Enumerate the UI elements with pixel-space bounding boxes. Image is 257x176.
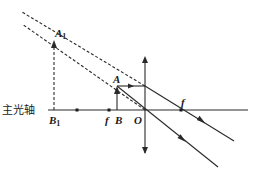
virtual-image-arrowhead	[51, 40, 57, 48]
right-focal-point-marker	[180, 109, 183, 112]
center-ray-extension	[22, 24, 145, 110]
right-focal-label: f	[181, 96, 186, 108]
object-bottom-label: B	[114, 114, 122, 126]
parallel-ray-extension	[22, 12, 145, 86]
parallel-ray-incident-arrow	[128, 84, 134, 89]
image-bottom-label: B1	[48, 114, 60, 128]
left-focal-label: f	[105, 114, 110, 126]
object-top-label: A	[112, 73, 120, 85]
left-focal-point-marker	[108, 109, 111, 112]
parallel-ray-refracted-arrow	[197, 116, 206, 124]
parallel-ray-refracted	[145, 86, 234, 141]
principal-axis-label: 主光轴	[2, 103, 35, 117]
lens-ray-diagram: 主光轴 A1 B1 A B f f O	[0, 0, 257, 176]
center-ray	[117, 86, 218, 167]
image-top-label: A1	[54, 27, 66, 41]
double-focal-point-marker	[76, 109, 79, 112]
optical-center-label: O	[134, 114, 142, 126]
